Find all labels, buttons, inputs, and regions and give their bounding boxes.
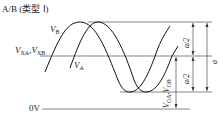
- label-zero-volt: 0V: [29, 104, 40, 113]
- label-half-a-bottom: a/2: [182, 74, 191, 84]
- label-vb: VB: [50, 25, 60, 35]
- label-va: VA: [74, 61, 84, 71]
- curve-vb: [45, 22, 170, 92]
- label-half-a-top: a/2: [182, 38, 191, 48]
- waveform-diagram: A/B (类型 Ⅰ) VB VXA,VXB VA 0V VOA,VOB a/2 …: [0, 0, 223, 124]
- label-vxa-vxb: VXA,VXB: [15, 46, 45, 56]
- label-voa-vob: VOA,VOB: [162, 79, 172, 108]
- diagram-title: A/B (类型 Ⅰ): [2, 5, 49, 14]
- label-full-a: a: [210, 60, 219, 64]
